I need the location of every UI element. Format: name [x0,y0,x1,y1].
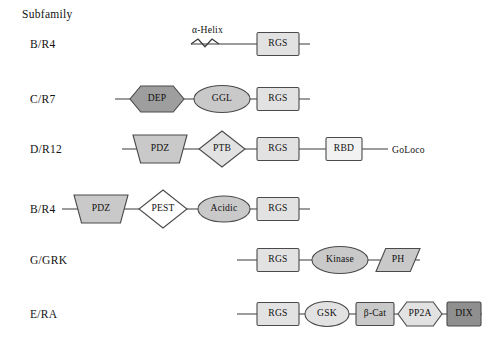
domain-shape-label: PDZ [151,142,170,153]
subfamily-header-label: Subfamily [22,8,73,21]
domain-shape-label: RBD [334,142,354,153]
diagram-row: G/GRKRGSKinasePH [30,247,420,274]
domain-shape-label: RGS [268,202,287,213]
domain-shape-label: GGL [212,92,232,103]
row-subfamily-label: G/GRK [30,254,68,266]
diagram-row: E/RARGSGSKβ-CatPP2ADIX [30,302,482,327]
domain-shape-label: PP2A [408,307,431,318]
domain-shape-label: Acidic [211,202,238,213]
domain-shape-label: PEST [151,202,174,213]
diagram-row: B/R4RGSα-Helix [30,24,310,56]
domain-shape-label: PH [392,253,405,264]
alpha-helix-squiggle-icon [191,39,219,47]
domain-shape-label: β-Cat [364,307,387,318]
alpha-helix-label: α-Helix [192,24,223,35]
row-subfamily-label: D/R12 [30,143,62,155]
domain-shape-label: Kinase [326,253,354,264]
diagram-rows: B/R4RGSα-HelixC/R7DEPGGLRGSD/R12PDZPTBRG… [30,24,482,327]
domain-shape-label: PDZ [92,202,111,213]
row-subfamily-label: B/R4 [30,203,56,215]
domain-shape-label: PTB [213,142,231,153]
diagram-row: B/R4PDZPESTAcidicRGS [30,190,310,228]
diagram-row: D/R12PDZPTBRGSRBDGoLoco [30,131,425,167]
domain-architecture-diagram: Subfamily B/R4RGSα-HelixC/R7DEPGGLRGSD/R… [0,0,502,348]
row-subfamily-label: B/R4 [30,38,56,50]
domain-shape-label: DIX [455,307,473,318]
diagram-row: C/R7DEPGGLRGS [30,86,310,113]
goloco-label: GoLoco [392,144,425,155]
row-subfamily-label: E/RA [30,308,58,320]
row-subfamily-label: C/R7 [30,93,56,105]
domain-shape-label: RGS [268,142,287,153]
domain-shape-label: RGS [268,37,287,48]
domain-shape-label: RGS [268,253,287,264]
domain-shape-label: RGS [268,92,287,103]
domain-shape-label: GSK [317,307,337,318]
domain-diagram-canvas: Subfamily B/R4RGSα-HelixC/R7DEPGGLRGSD/R… [0,0,502,348]
domain-shape-label: RGS [268,307,287,318]
domain-shape-label: DEP [148,92,167,103]
